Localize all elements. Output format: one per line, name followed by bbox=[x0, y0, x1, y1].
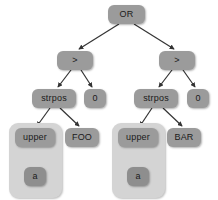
edge-or-to-gt-left bbox=[79, 24, 119, 49]
tree-node-upper-right[interactable]: upper bbox=[118, 128, 158, 147]
edge-strpos-right-to-bar bbox=[163, 108, 182, 126]
tree-node-gt-left[interactable]: > bbox=[57, 51, 93, 70]
tree-node-strpos-right[interactable]: strpos bbox=[134, 89, 178, 108]
tree-node-a-right[interactable]: a bbox=[127, 167, 149, 186]
edge-strpos-left-to-foo bbox=[60, 108, 79, 126]
tree-node-zero-left[interactable]: 0 bbox=[84, 89, 106, 108]
tree-node-upper-left[interactable]: upper bbox=[15, 128, 55, 147]
parse-tree-diagram: OR>>strpos0strpos0upperFOOaupperBARa bbox=[0, 0, 218, 200]
edge-or-to-gt-right bbox=[134, 24, 174, 49]
tree-node-or[interactable]: OR bbox=[108, 5, 145, 24]
edge-gt-left-to-zero-left bbox=[81, 70, 92, 87]
tree-node-foo[interactable]: FOO bbox=[65, 128, 99, 147]
tree-node-strpos-left[interactable]: strpos bbox=[32, 89, 76, 108]
edge-gt-right-to-zero-right bbox=[183, 70, 195, 87]
tree-node-a-left[interactable]: a bbox=[24, 167, 46, 186]
tree-node-gt-right[interactable]: > bbox=[159, 51, 195, 70]
tree-node-zero-right[interactable]: 0 bbox=[187, 89, 209, 108]
edge-gt-right-to-strpos-right bbox=[159, 70, 172, 87]
tree-node-bar[interactable]: BAR bbox=[167, 128, 201, 147]
edge-gt-left-to-strpos-left bbox=[58, 70, 71, 87]
